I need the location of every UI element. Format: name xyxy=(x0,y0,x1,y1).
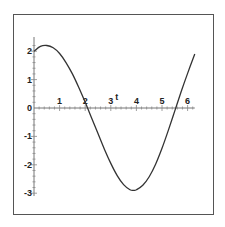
data-curve xyxy=(34,45,195,190)
x-tick-label-6: 6 xyxy=(185,96,190,106)
y-tick-label-0: 0 xyxy=(27,103,32,113)
tick-labels: 123456t-3-2-1012 xyxy=(24,46,190,198)
x-tick-label-4: 4 xyxy=(134,96,139,106)
x-axis-label: t xyxy=(115,92,118,102)
plot-area: 123456t-3-2-1012 xyxy=(0,0,225,227)
axis-ticks xyxy=(31,46,193,194)
x-tick-label-1: 1 xyxy=(57,96,62,106)
axes xyxy=(34,37,195,196)
y-tick-label-2: 2 xyxy=(27,46,32,56)
x-tick-label-3: 3 xyxy=(108,96,113,106)
y-tick-label--1: -1 xyxy=(24,131,32,141)
y-tick-label--3: -3 xyxy=(24,188,32,198)
y-tick-label-1: 1 xyxy=(27,75,32,85)
x-tick-label-5: 5 xyxy=(159,96,164,106)
y-tick-label--2: -2 xyxy=(24,160,32,170)
